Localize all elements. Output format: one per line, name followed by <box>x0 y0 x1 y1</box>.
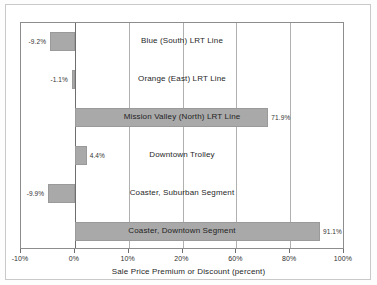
x-axis-tick <box>182 249 183 253</box>
bar-category-label: Orange (East) LRT Line <box>21 74 343 84</box>
x-axis-title: Sale Price Premium or Discount (percent) <box>0 267 377 276</box>
x-axis-tick <box>128 249 129 253</box>
bar-category-label: Coaster, Downtown Segment <box>21 226 343 236</box>
x-axis-tick <box>74 249 75 253</box>
x-axis-tick-label: 0% <box>69 254 79 264</box>
chart-figure: -9.2%Blue (South) LRT Line-1.1%Orange (E… <box>0 0 377 285</box>
bar-category-label: Blue (South) LRT Line <box>21 36 343 46</box>
bar-row: 4.4%Downtown Trolley <box>21 137 343 175</box>
bar-category-label: Coaster, Suburban Segment <box>21 188 343 198</box>
x-axis-tick-label: 60% <box>228 254 242 264</box>
bar-row: -9.2%Blue (South) LRT Line <box>21 23 343 61</box>
gridline-100pct <box>344 23 345 248</box>
x-axis-tick-label: 20% <box>174 254 188 264</box>
plot-area: -9.2%Blue (South) LRT Line-1.1%Orange (E… <box>20 22 344 249</box>
bar-row: 71.9%Mission Valley (North) LRT Line <box>21 99 343 137</box>
x-axis-tick <box>343 249 344 253</box>
x-axis-tick <box>289 249 290 253</box>
x-axis-tick <box>20 249 21 253</box>
bar-row: 91.1%Coaster, Downtown Segment <box>21 212 343 250</box>
bar-row: -9.9%Coaster, Suburban Segment <box>21 174 343 212</box>
bar-row: -1.1%Orange (East) LRT Line <box>21 61 343 99</box>
bar-category-label: Mission Valley (North) LRT Line <box>21 112 343 122</box>
x-axis-tick-label: 10% <box>121 254 135 264</box>
x-axis-tick-label: 100% <box>334 254 352 264</box>
x-axis-tick <box>235 249 236 253</box>
x-axis-tick-label: -10% <box>12 254 29 264</box>
x-axis-tick-label: 80% <box>282 254 296 264</box>
bar-category-label: Downtown Trolley <box>21 150 343 160</box>
